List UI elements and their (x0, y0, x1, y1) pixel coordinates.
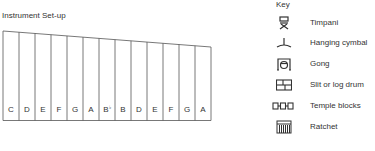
key-item-gong: Gong (270, 57, 375, 71)
note-label: G (72, 105, 78, 114)
note-label: F (57, 105, 62, 114)
key-label: Hanging cymbal (310, 38, 367, 47)
timpani-icon (276, 16, 292, 30)
note-label: D (24, 105, 30, 114)
note-label: G (184, 105, 190, 114)
note-label: E (40, 105, 45, 114)
key-item-timpani: Timpani (270, 16, 375, 30)
key-label: Ratchet (310, 122, 338, 131)
hanging-cymbal-icon (276, 36, 292, 50)
note-label: C (8, 105, 14, 114)
key-title: Key (276, 0, 290, 9)
instrument-setup-diagram: CDEFGAB♭BDEFGA (0, 0, 230, 151)
key-item-hanging-cymbal: Hanging cymbal (270, 36, 375, 50)
note-label: A (200, 105, 206, 114)
gong-icon (276, 57, 292, 71)
note-label: A (88, 105, 94, 114)
key-label: Temple blocks (310, 101, 361, 110)
note-label: F (169, 105, 174, 114)
ratchet-icon (276, 120, 292, 134)
key-label: Slit or log drum (310, 80, 364, 89)
note-label: D (136, 105, 142, 114)
key-label: Gong (310, 59, 330, 68)
key-item-slit-drum: Slit or log drum (270, 78, 375, 92)
temple-blocks-icon (272, 99, 294, 113)
key-item-ratchet: Ratchet (270, 120, 375, 134)
note-label: B♭ (103, 104, 110, 114)
slit-drum-icon (276, 78, 292, 92)
note-label: B (120, 105, 125, 114)
key-label: Timpani (310, 18, 338, 27)
key-item-temple-blocks: Temple blocks (270, 99, 375, 113)
note-label: E (152, 105, 157, 114)
